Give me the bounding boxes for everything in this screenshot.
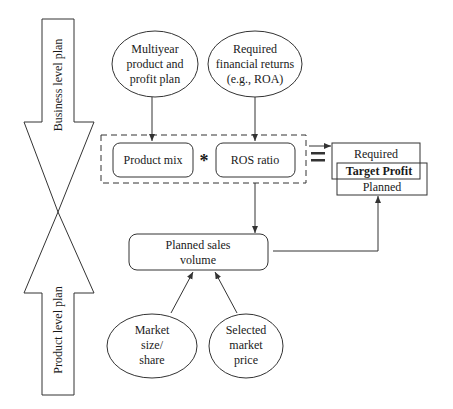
- svg-text:ROS ratio: ROS ratio: [231, 153, 279, 167]
- svg-text:product and: product and: [127, 57, 184, 71]
- business-level-label: Business level plan: [51, 39, 65, 132]
- node-multiyear-plan: Multiyear product and profit plan: [112, 31, 198, 97]
- svg-text:share: share: [139, 353, 164, 367]
- svg-text:Required: Required: [233, 42, 277, 56]
- arrow-connector: [273, 196, 378, 251]
- svg-text:Market: Market: [135, 323, 170, 337]
- svg-text:Multiyear: Multiyear: [131, 42, 178, 56]
- svg-text:Target Profit: Target Profit: [346, 164, 412, 178]
- svg-text:Selected: Selected: [226, 323, 267, 337]
- svg-text:profit plan: profit plan: [130, 72, 180, 86]
- svg-text:Planned: Planned: [363, 180, 402, 194]
- node-required-returns: Required financial returns (e.g., ROA): [208, 31, 302, 97]
- svg-text:Product mix: Product mix: [124, 153, 183, 167]
- product-level-arrow: Product level plan: [24, 212, 94, 395]
- business-level-arrow: Business level plan: [24, 19, 94, 212]
- svg-text:volume: volume: [180, 253, 216, 267]
- target-profit-diagram: Business level plan Product level plan M…: [0, 0, 453, 409]
- node-planned-sales-volume: Planned sales volume: [129, 234, 268, 270]
- svg-text:price: price: [234, 353, 258, 367]
- arrow-connector: [215, 272, 237, 313]
- svg-text:size/: size/: [141, 338, 164, 352]
- product-level-label: Product level plan: [51, 286, 65, 373]
- node-target-profit: Required Target Profit Planned: [332, 143, 427, 195]
- svg-text:Planned sales: Planned sales: [166, 238, 231, 252]
- svg-text:financial returns: financial returns: [216, 57, 295, 71]
- svg-text:(e.g., ROA): (e.g., ROA): [227, 72, 284, 86]
- multiply-operator: *: [200, 151, 209, 171]
- node-ros-ratio: ROS ratio: [216, 143, 295, 177]
- node-product-mix: Product mix: [113, 143, 193, 177]
- svg-text:Required: Required: [354, 147, 398, 161]
- node-selected-market-price: Selected market price: [209, 314, 283, 378]
- node-market-size-share: Market size/ share: [107, 314, 197, 378]
- arrow-connector: [171, 272, 193, 313]
- equals-sign: [311, 152, 325, 162]
- svg-text:market: market: [229, 338, 263, 352]
